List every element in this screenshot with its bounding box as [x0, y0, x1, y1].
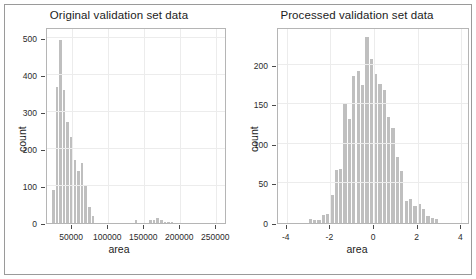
y-tick-mark: [41, 76, 45, 77]
histogram-bar: [52, 190, 55, 223]
histogram-bar: [370, 59, 373, 223]
histogram-bar: [357, 71, 360, 223]
y-axis-label-processed: count: [248, 126, 260, 152]
y-tick-label: 300: [0, 108, 37, 118]
histogram-bar: [348, 119, 351, 223]
histogram-bar: [81, 163, 84, 223]
histogram-bar: [63, 90, 66, 223]
histogram-bar: [383, 90, 386, 223]
gridline-vertical: [180, 29, 181, 223]
gridline-vertical: [461, 29, 462, 223]
y-axis-label-original: count: [16, 126, 28, 152]
histogram-bar: [426, 216, 429, 223]
x-tick-mark: [71, 225, 72, 229]
histogram-bar: [88, 207, 91, 223]
histogram-bar: [335, 170, 338, 223]
gridline-horizontal: [278, 143, 468, 144]
gridline-horizontal: [47, 185, 225, 186]
panel-title-processed: Processed validation set data: [238, 9, 476, 21]
histogram-bar: [339, 169, 342, 223]
y-tick-label: 100: [0, 182, 37, 192]
gridline-vertical: [144, 29, 145, 223]
panel-processed: Processed validation set data 0501001502…: [238, 0, 476, 279]
x-tick-label: 2: [414, 232, 419, 242]
histogram-bar: [153, 220, 156, 223]
y-tick-label: 500: [0, 34, 37, 44]
histogram-bar: [409, 199, 412, 223]
histogram-bar: [352, 76, 355, 223]
gridline-vertical: [287, 29, 288, 223]
histogram-bars-processed: [278, 29, 468, 223]
histogram-bar: [56, 87, 59, 223]
gridline-vertical: [374, 29, 375, 223]
x-tick-mark: [179, 225, 180, 229]
x-tick-mark: [460, 225, 461, 229]
y-tick-mark: [41, 113, 45, 114]
figure-container: Original validation set data 01002003004…: [0, 0, 476, 279]
histogram-bar: [317, 220, 320, 223]
x-tick-label: -4: [282, 232, 290, 242]
x-tick-label: 50000: [59, 232, 83, 242]
histogram-bar: [167, 222, 170, 223]
y-tick-mark: [272, 184, 276, 185]
histogram-bar: [413, 206, 416, 223]
histogram-bar: [92, 216, 95, 223]
gridline-horizontal: [278, 64, 468, 65]
histogram-bar: [387, 117, 390, 223]
gridline-vertical: [216, 29, 217, 223]
gridline-horizontal: [47, 37, 225, 38]
histogram-bar: [84, 186, 87, 223]
histogram-bar: [160, 220, 163, 223]
gridline-vertical: [418, 29, 419, 223]
histogram-bar: [322, 215, 325, 223]
histogram-bar: [59, 40, 62, 223]
y-tick-mark: [272, 66, 276, 67]
histogram-bar: [171, 222, 174, 223]
x-tick-label: 100000: [93, 232, 121, 242]
x-tick-label: 150000: [129, 232, 157, 242]
y-tick-mark: [41, 187, 45, 188]
y-tick-mark: [41, 150, 45, 151]
histogram-bar: [326, 214, 329, 223]
histogram-bar: [422, 209, 425, 223]
histogram-bar: [309, 219, 312, 223]
panel-title-original: Original validation set data: [0, 9, 238, 21]
y-tick-mark: [41, 39, 45, 40]
x-tick-label: 4: [458, 232, 463, 242]
y-tick-label: 0: [238, 219, 268, 229]
plot-area-original: [46, 28, 226, 224]
histogram-bar: [378, 84, 381, 223]
x-tick-label: 0: [371, 232, 376, 242]
gridline-vertical: [330, 29, 331, 223]
y-tick-label: 200: [238, 61, 268, 71]
histogram-bar: [74, 160, 77, 223]
gridline-vertical: [108, 29, 109, 223]
gridline-horizontal: [278, 103, 468, 104]
histogram-bar: [361, 85, 364, 223]
x-tick-mark: [107, 225, 108, 229]
y-tick-label: 400: [0, 71, 37, 81]
histogram-bar: [66, 122, 69, 223]
y-tick-label: 0: [0, 219, 37, 229]
gridline-horizontal: [47, 74, 225, 75]
x-tick-mark: [215, 225, 216, 229]
histogram-bar: [156, 218, 159, 223]
gridline-vertical: [72, 29, 73, 223]
x-tick-label: 250000: [201, 232, 229, 242]
panel-original: Original validation set data 01002003004…: [0, 0, 238, 279]
histogram-bar: [313, 220, 316, 223]
y-tick-label: 150: [238, 100, 268, 110]
y-tick-mark: [41, 224, 45, 225]
y-tick-label: 50: [238, 179, 268, 189]
histogram-bars-original: [47, 29, 225, 223]
histogram-bar: [400, 171, 403, 223]
y-tick-mark: [272, 105, 276, 106]
x-axis-label-processed: area: [238, 243, 476, 255]
x-tick-label: 200000: [165, 232, 193, 242]
x-tick-mark: [417, 225, 418, 229]
histogram-bar: [396, 157, 399, 223]
gridline-horizontal: [47, 111, 225, 112]
x-tick-mark: [286, 225, 287, 229]
histogram-bar: [365, 37, 368, 223]
y-tick-mark: [272, 224, 276, 225]
